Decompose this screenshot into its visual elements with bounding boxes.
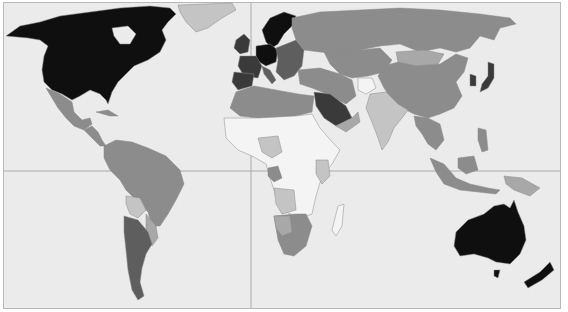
region-brazil-north[interactable]	[104, 140, 184, 226]
region-philippines[interactable]	[478, 128, 488, 152]
region-new-guinea[interactable]	[504, 176, 540, 196]
region-central-america[interactable]	[84, 126, 106, 146]
region-tasmania[interactable]	[494, 270, 500, 278]
region-southeast-asia[interactable]	[414, 116, 444, 150]
region-korea[interactable]	[470, 74, 476, 86]
region-north-america[interactable]	[6, 6, 176, 104]
region-north-africa[interactable]	[230, 86, 314, 118]
region-australia[interactable]	[454, 200, 526, 264]
region-cuba[interactable]	[96, 110, 118, 116]
region-angola[interactable]	[274, 188, 296, 214]
region-italy[interactable]	[262, 66, 276, 84]
region-uk-ireland[interactable]	[234, 34, 250, 54]
region-russia[interactable]	[292, 8, 516, 54]
world-map[interactable]	[0, 0, 568, 312]
region-greenland[interactable]	[178, 3, 236, 32]
region-afghanistan[interactable]	[358, 78, 376, 94]
region-japan[interactable]	[480, 62, 494, 92]
region-madagascar[interactable]	[332, 204, 344, 236]
region-new-zealand[interactable]	[524, 262, 554, 288]
